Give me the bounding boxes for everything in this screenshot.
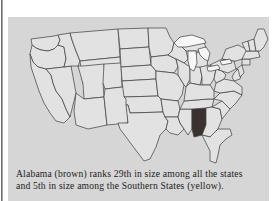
state-north-dakota xyxy=(118,28,149,49)
state-maine xyxy=(254,29,268,51)
page-gutter-rule-secondary xyxy=(2,0,3,201)
figure-caption-line-2: and 5th in size among the Southern State… xyxy=(16,180,266,192)
us-map-svg xyxy=(8,17,269,167)
us-map[interactable] xyxy=(8,17,269,167)
figure-caption-line-1: Alabama (brown) ranks 29th in size among… xyxy=(16,168,266,180)
state-colorado xyxy=(103,63,122,89)
state-arizona xyxy=(74,93,107,129)
state-utah xyxy=(78,64,105,99)
state-arkansas xyxy=(161,99,180,117)
state-south-dakota xyxy=(120,47,151,67)
figure-panel: Alabama (brown) ranks 29th in size among… xyxy=(8,17,269,201)
state-nebraska xyxy=(121,65,156,81)
state-connecticut xyxy=(242,59,250,65)
figure-caption: Alabama (brown) ranks 29th in size among… xyxy=(16,168,266,192)
state-kentucky xyxy=(184,83,214,101)
state-kansas xyxy=(122,79,158,97)
state-oklahoma xyxy=(124,96,163,113)
